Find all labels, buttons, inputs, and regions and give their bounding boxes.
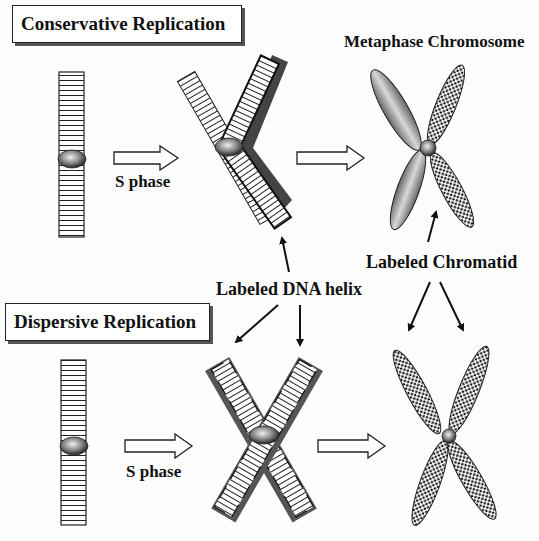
section-title-conservative: Conservative Replication (12, 5, 242, 43)
unreplicated-chromosome-bottom (60, 360, 88, 525)
replicated-chromosome-conservative (177, 55, 292, 229)
replication-diagram: Conservative Replication Dispersive Repl… (0, 0, 539, 541)
s-phase-label-bottom: S phase (126, 462, 181, 482)
labeled-dna-helix-label: Labeled DNA helix (216, 279, 362, 300)
replicated-chromosome-dispersive (205, 357, 323, 523)
s-phase-label-top: S phase (115, 172, 170, 192)
unreplicated-chromosome-top (58, 72, 86, 237)
metaphase-chromosome-top (363, 61, 481, 233)
labeled-chromatid-label: Labeled Chromatid (366, 252, 517, 273)
process-arrow-icon (297, 146, 364, 170)
metaphase-chromosome-bottom (386, 343, 503, 529)
process-arrow-icon (114, 146, 178, 170)
process-arrow-icon (125, 434, 192, 458)
section-title-dispersive: Dispersive Replication (5, 303, 210, 341)
process-arrow-icon (318, 434, 385, 458)
metaphase-chromosome-label: Metaphase Chromosome (344, 32, 525, 52)
